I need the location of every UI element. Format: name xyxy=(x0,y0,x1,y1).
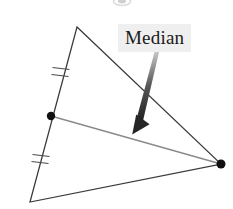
vertex-dot xyxy=(217,160,226,169)
median-triangle-figure: Median xyxy=(0,0,233,209)
triangle-outline xyxy=(30,27,221,202)
lower-congruence-ticks xyxy=(32,155,50,164)
median-pointer-arrow xyxy=(132,49,159,135)
cropped-glyph-artifact xyxy=(114,0,131,6)
upper-congruence-ticks xyxy=(52,68,70,77)
geometry-canvas xyxy=(0,0,233,209)
median-label: Median xyxy=(118,24,191,52)
midpoint-dot xyxy=(47,112,55,120)
